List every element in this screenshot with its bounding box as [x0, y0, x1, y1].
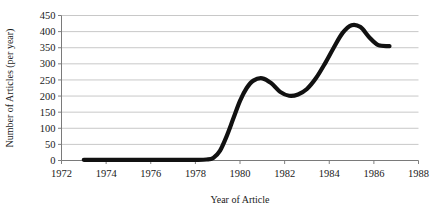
x-tick-label: 1984: [319, 168, 341, 179]
x-tick-label: 1978: [185, 168, 206, 179]
chart-container: 050100150200250300350400450 197219741976…: [0, 0, 435, 214]
y-tick-label: 250: [40, 75, 56, 86]
x-tick-label: 1988: [408, 168, 429, 179]
y-tick-label: 100: [40, 123, 56, 134]
line-chart: 050100150200250300350400450 197219741976…: [0, 0, 435, 214]
x-tick-labels-group: 197219741976197819801982198419861988: [51, 168, 429, 179]
x-axis-title: Year of Article: [211, 194, 271, 205]
y-tick-label: 350: [40, 42, 56, 53]
y-tick-label: 0: [50, 155, 55, 166]
y-tick-label: 400: [40, 26, 56, 37]
y-tick-label: 50: [45, 139, 56, 150]
x-tick-label: 1986: [363, 168, 384, 179]
y-tick-label: 200: [40, 91, 56, 102]
y-axis-title: Number of Articles (per year): [4, 29, 16, 148]
y-tick-marks-group: [58, 16, 62, 161]
x-tick-label: 1982: [274, 168, 295, 179]
y-tick-label: 150: [40, 107, 56, 118]
x-tick-label: 1972: [51, 168, 72, 179]
x-tick-label: 1974: [96, 168, 118, 179]
y-tick-labels-group: 050100150200250300350400450: [40, 10, 56, 166]
x-tick-label: 1980: [230, 168, 251, 179]
x-tick-label: 1976: [140, 168, 161, 179]
y-tick-label: 300: [40, 58, 56, 69]
y-tick-label: 450: [40, 10, 56, 21]
data-series-line: [84, 25, 390, 160]
